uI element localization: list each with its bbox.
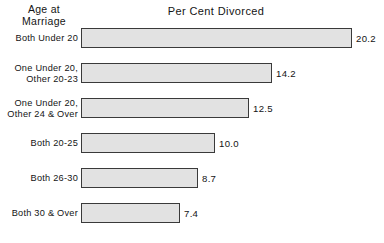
bar-value-label: 14.2: [276, 68, 296, 79]
bar-value-label: 7.4: [184, 208, 198, 219]
bars-area: Both Under 20 20.2 One Under 20, Other 2…: [0, 28, 384, 238]
bar-row: Both 30 & Over 7.4: [0, 203, 384, 223]
bar: [81, 133, 215, 153]
bar: [81, 63, 272, 83]
bar-row: One Under 20, Other 20-23 14.2: [0, 63, 384, 83]
bar-track: 10.0: [81, 133, 215, 153]
bar-row: Both 26-30 8.7: [0, 168, 384, 188]
bar-category-label: One Under 20, Other 24 & Over: [0, 98, 78, 119]
bar-category-label: Both 20-25: [0, 138, 78, 149]
bar-track: 12.5: [81, 98, 249, 118]
chart-title: Per Cent Divorced: [150, 6, 282, 18]
bar-chart-figure: Age at Marriage Per Cent Divorced Both U…: [0, 0, 384, 243]
bar-value-label: 8.7: [202, 173, 216, 184]
bar-value-label: 10.0: [219, 138, 239, 149]
bar-row: One Under 20, Other 24 & Over 12.5: [0, 98, 384, 118]
bar-category-label: Both 26-30: [0, 173, 78, 184]
bar: [81, 98, 249, 118]
bar: [81, 203, 180, 223]
bar-track: 7.4: [81, 203, 180, 223]
bar-track: 20.2: [81, 28, 352, 48]
bar-category-label: Both 30 & Over: [0, 208, 78, 219]
bar-value-label: 20.2: [356, 33, 376, 44]
bar-category-label: Both Under 20: [0, 33, 78, 44]
bar-row: Both Under 20 20.2: [0, 28, 384, 48]
bar-category-label: One Under 20, Other 20-23: [0, 63, 78, 84]
bar-value-label: 12.5: [253, 103, 273, 114]
bar-track: 8.7: [81, 168, 198, 188]
bar-track: 14.2: [81, 63, 272, 83]
bar: [81, 168, 198, 188]
bar: [81, 28, 352, 48]
bar-row: Both 20-25 10.0: [0, 133, 384, 153]
category-axis-title: Age at Marriage: [6, 4, 82, 27]
